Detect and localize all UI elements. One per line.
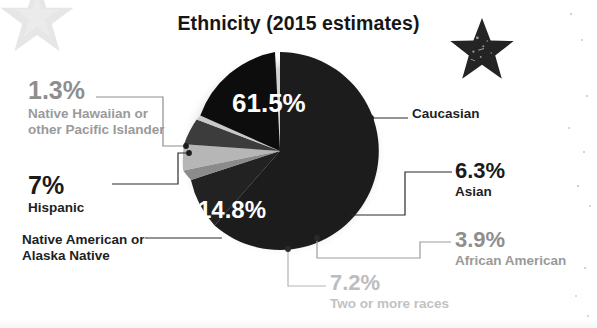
label-value-african-american: 3.9% [455, 229, 595, 251]
label-value-two-or-more: 7.2% [330, 272, 480, 294]
label-name-two-or-more: Two or more races [330, 296, 480, 312]
label-value-asian: 6.3% [455, 160, 585, 182]
label-two-or-more: 7.2% Two or more races [330, 272, 480, 312]
label-asian: 6.3% Asian [455, 160, 585, 200]
label-name-native-american: Native American or Alaska Native [22, 232, 187, 263]
label-name-hispanic: Hispanic [28, 200, 178, 216]
label-name-caucasian: Caucasian [412, 106, 562, 122]
label-native-american: Native American or Alaska Native [22, 232, 187, 263]
leader-dot-native-hawaiian [183, 143, 189, 149]
leader-dot-asian [345, 212, 351, 218]
label-name-asian: Asian [455, 184, 585, 200]
leader-dot-hispanic [186, 150, 192, 156]
leader-dot-two-or-more [285, 246, 291, 252]
leader-dot-caucasian [368, 115, 374, 121]
label-value-hispanic: 7% [28, 173, 178, 198]
label-african-american: 3.9% African American [455, 229, 595, 269]
slice-value-native-american: 14.8% [198, 196, 266, 224]
slice-value-caucasian: 61.5% [232, 88, 306, 119]
label-caucasian: Caucasian [412, 106, 562, 122]
label-name-native-hawaiian: Native Hawaiian or other Pacific Islande… [28, 106, 178, 137]
label-value-native-hawaiian: 1.3% [28, 78, 178, 103]
leader-dot-african-american [314, 235, 320, 241]
label-native-hawaiian: 1.3% Native Hawaiian or other Pacific Is… [28, 78, 178, 137]
label-hispanic: 7% Hispanic [28, 173, 178, 216]
chart-canvas: Ethnicity (2015 estimates) [0, 0, 597, 328]
label-name-african-american: African American [455, 253, 595, 269]
